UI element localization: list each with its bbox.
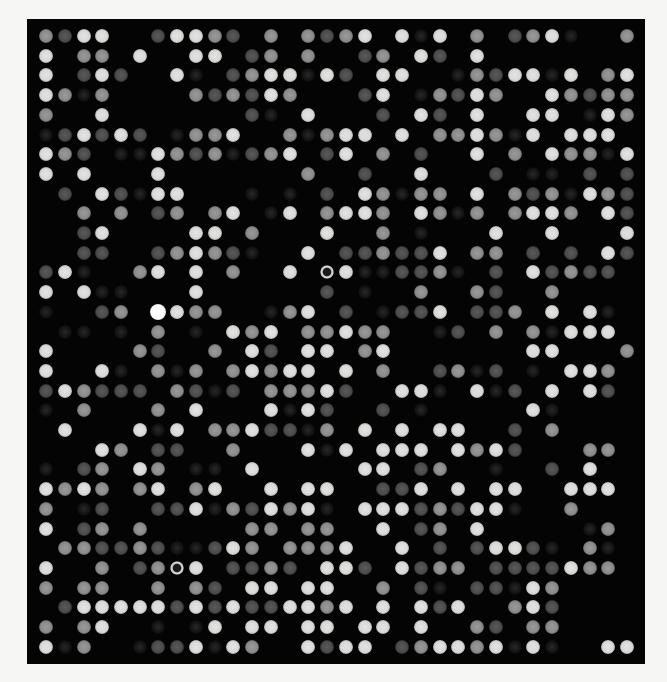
array-spot bbox=[77, 167, 91, 181]
array-spot bbox=[245, 147, 259, 161]
array-spot bbox=[601, 305, 615, 319]
array-spot bbox=[77, 128, 91, 142]
array-spot bbox=[489, 167, 503, 181]
array-spot bbox=[77, 522, 91, 536]
array-spot bbox=[133, 561, 147, 575]
array-spot bbox=[526, 541, 540, 555]
array-spot bbox=[601, 522, 615, 536]
array-spot bbox=[601, 246, 615, 260]
array-spot bbox=[226, 88, 240, 102]
array-spot bbox=[170, 147, 184, 161]
array-spot bbox=[151, 147, 165, 161]
array-spot bbox=[526, 187, 540, 201]
array-spot bbox=[320, 384, 334, 398]
array-spot bbox=[526, 640, 540, 654]
array-spot bbox=[264, 522, 278, 536]
array-spot bbox=[301, 49, 315, 63]
array-spot bbox=[489, 581, 503, 595]
array-spot bbox=[395, 443, 409, 457]
array-spot bbox=[470, 640, 484, 654]
array-spot bbox=[489, 88, 503, 102]
array-spot bbox=[77, 403, 91, 417]
array-spot bbox=[601, 443, 615, 457]
array-spot bbox=[451, 68, 465, 82]
array-spot bbox=[339, 325, 353, 339]
array-spot bbox=[189, 482, 203, 496]
array-spot bbox=[545, 108, 559, 122]
array-spot bbox=[620, 68, 634, 82]
array-spot bbox=[264, 147, 278, 161]
array-spot bbox=[395, 187, 409, 201]
array-spot bbox=[601, 68, 615, 82]
array-spot bbox=[620, 88, 634, 102]
array-spot bbox=[320, 226, 334, 240]
array-spot bbox=[358, 29, 372, 43]
array-spot bbox=[470, 364, 484, 378]
array-spot bbox=[376, 187, 390, 201]
array-spot bbox=[283, 265, 297, 279]
array-spot bbox=[489, 443, 503, 457]
array-spot bbox=[245, 640, 259, 654]
array-spot bbox=[583, 325, 597, 339]
array-spot bbox=[151, 403, 165, 417]
array-spot bbox=[526, 265, 540, 279]
array-spot bbox=[376, 600, 390, 614]
array-spot bbox=[564, 246, 578, 260]
array-spot bbox=[601, 541, 615, 555]
array-spot bbox=[226, 147, 240, 161]
array-spot bbox=[508, 423, 522, 437]
array-spot bbox=[339, 68, 353, 82]
array-spot bbox=[376, 462, 390, 476]
array-spot bbox=[376, 482, 390, 496]
array-spot bbox=[39, 265, 53, 279]
array-spot bbox=[470, 108, 484, 122]
array-spot bbox=[451, 443, 465, 457]
array-spot bbox=[208, 128, 222, 142]
array-spot bbox=[58, 640, 72, 654]
array-spot bbox=[414, 147, 428, 161]
array-spot bbox=[95, 364, 109, 378]
array-spot bbox=[489, 265, 503, 279]
array-spot bbox=[245, 49, 259, 63]
array-spot bbox=[245, 502, 259, 516]
array-spot bbox=[208, 206, 222, 220]
array-spot bbox=[601, 640, 615, 654]
array-spot bbox=[433, 265, 447, 279]
array-spot bbox=[226, 443, 240, 457]
array-spot bbox=[470, 68, 484, 82]
array-spot bbox=[208, 49, 222, 63]
array-spot bbox=[414, 384, 428, 398]
array-spot bbox=[583, 482, 597, 496]
array-spot bbox=[114, 443, 128, 457]
array-spot bbox=[39, 462, 53, 476]
array-spot bbox=[508, 640, 522, 654]
array-spot bbox=[358, 502, 372, 516]
array-spot bbox=[451, 364, 465, 378]
array-spot bbox=[301, 29, 315, 43]
array-spot bbox=[414, 49, 428, 63]
array-spot bbox=[114, 128, 128, 142]
array-spot bbox=[301, 108, 315, 122]
array-spot bbox=[39, 581, 53, 595]
array-spot bbox=[414, 522, 428, 536]
array-spot bbox=[39, 128, 53, 142]
array-spot bbox=[226, 541, 240, 555]
array-spot bbox=[133, 147, 147, 161]
array-spot bbox=[95, 49, 109, 63]
array-spot bbox=[77, 147, 91, 161]
array-spot bbox=[583, 541, 597, 555]
array-spot bbox=[489, 285, 503, 299]
array-spot bbox=[545, 403, 559, 417]
array-spot bbox=[339, 305, 353, 319]
array-spot bbox=[170, 305, 184, 319]
array-spot bbox=[226, 600, 240, 614]
array-spot bbox=[376, 581, 390, 595]
array-spot bbox=[433, 581, 447, 595]
array-spot bbox=[564, 88, 578, 102]
array-spot bbox=[245, 541, 259, 555]
array-spot bbox=[451, 265, 465, 279]
array-spot bbox=[433, 206, 447, 220]
array-spot bbox=[301, 325, 315, 339]
array-spot bbox=[414, 462, 428, 476]
array-spot bbox=[208, 581, 222, 595]
